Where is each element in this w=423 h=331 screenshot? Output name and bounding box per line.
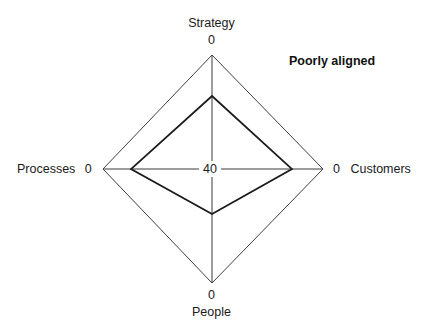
axis-label-strategy: Strategy — [0, 16, 423, 30]
axis-label-processes-group: Processes 0 — [17, 162, 92, 176]
axis-tick-strategy: 0 — [0, 33, 423, 47]
chart-annotation: Poorly aligned — [289, 54, 375, 68]
center-scale-label: 40 — [199, 161, 221, 177]
radar-chart: Strategy 0 0 People Processes 0 0 Custom… — [0, 0, 423, 331]
axis-tick-customers: 0 — [333, 162, 340, 176]
axis-tick-people: 0 — [0, 288, 423, 302]
axis-label-processes: Processes — [17, 162, 75, 176]
axis-label-customers: Customers — [350, 162, 410, 176]
axis-label-customers-group: 0 Customers — [333, 162, 411, 176]
axis-label-people: People — [0, 305, 423, 319]
axis-tick-processes: 0 — [85, 162, 92, 176]
